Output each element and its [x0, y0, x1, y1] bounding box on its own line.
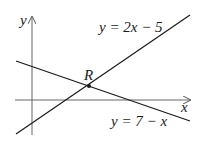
y-axis-label: y	[18, 12, 27, 28]
equation-label-falling: y = 7 − x	[109, 113, 167, 129]
diagram-labels: y x y = 2x − 5 y = 7 − x R	[0, 0, 200, 143]
x-axis-label: x	[180, 99, 188, 115]
equation-label-rising: y = 2x − 5	[97, 19, 163, 35]
intersection-label: R	[83, 67, 93, 83]
